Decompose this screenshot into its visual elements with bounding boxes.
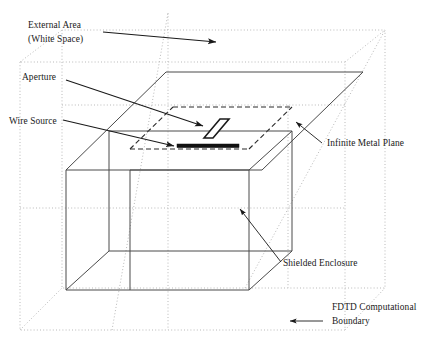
label-fdtd-boundary-line2: Boundary (332, 316, 370, 326)
infinite-metal-plane (66, 72, 363, 170)
label-fdtd-boundary-line1: FDTD Computational (332, 302, 417, 312)
boundary-front-face (62, 30, 385, 288)
label-wire-source: Wire Source (9, 116, 57, 126)
enclosure-bottom-depth-edge (66, 251, 109, 290)
wire-source-rect (177, 144, 239, 148)
leader-lines (63, 32, 323, 321)
boundary-diagonal-left (112, 13, 168, 330)
diagram-canvas: External Area (White Space) Aperture Wir… (0, 0, 425, 351)
leader-shielded-enclosure (240, 209, 281, 262)
fdtd-diagram-figure: External Area (White Space) Aperture Wir… (0, 0, 425, 351)
shielded-enclosure (66, 107, 292, 290)
label-external-area-line1: External Area (28, 20, 82, 30)
wire-source-bar (177, 144, 239, 148)
label-infinite-metal-plane: Infinite Metal Plane (327, 138, 404, 148)
boundary-diagonal-right (245, 30, 385, 288)
label-aperture: Aperture (22, 72, 56, 82)
enclosure-front-face (130, 170, 249, 290)
leader-wire-source (63, 120, 174, 146)
leader-infinite-metal-plane (296, 122, 322, 143)
boundary-depth-edge-top-right (345, 30, 385, 62)
metal-plane-outline (66, 72, 363, 170)
leader-external-area (103, 32, 216, 42)
enclosure-top-rear-right (249, 107, 292, 149)
aperture-slot (204, 119, 229, 138)
boundary-depth-edge-bottom-left (20, 288, 62, 330)
label-external-area-line2: (White Space) (28, 34, 83, 45)
aperture-outline (204, 119, 229, 138)
leader-aperture (66, 80, 203, 126)
label-shielded-enclosure: Shielded Enclosure (283, 258, 357, 268)
